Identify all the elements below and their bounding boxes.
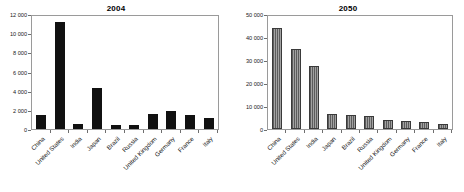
y-tick-label: 6 000 xyxy=(13,70,27,76)
chart-panel-2004: 2004 12 00010 0008 0006 0004 0002 0000 C… xyxy=(0,0,232,192)
bar-slot xyxy=(286,16,304,129)
y-tick-mark xyxy=(264,61,267,62)
bar-slot xyxy=(162,16,181,129)
x-axis-label-italy: Italy xyxy=(435,135,448,148)
x-label-slot: Germany xyxy=(162,133,181,191)
y-axis-2004: 12 00010 0008 0006 0004 0002 0000 xyxy=(0,15,31,130)
x-label-slot: France xyxy=(415,133,433,191)
bar-slot xyxy=(268,16,286,129)
y-tick-mark xyxy=(264,130,267,131)
bar-united-kingdom xyxy=(148,114,158,129)
x-label-slot: Japan xyxy=(88,133,107,191)
x-labels-2050: ChinaUnited StatesIndiaJapanBrazilRussia… xyxy=(268,133,452,191)
x-label-slot: Italy xyxy=(434,133,452,191)
bar-united-states xyxy=(291,49,301,129)
x-label-slot: Germany xyxy=(397,133,415,191)
x-label-slot: United Kingdom xyxy=(378,133,396,191)
y-tick-mark xyxy=(28,111,31,112)
x-axis-label-brazil: Brazil xyxy=(105,135,121,151)
bar-slot xyxy=(323,16,341,129)
bar-japan xyxy=(92,88,102,129)
y-tick-mark xyxy=(28,15,31,16)
bar-germany xyxy=(166,111,176,129)
bar-slot xyxy=(125,16,144,129)
dual-bar-chart-figure: 2004 12 00010 0008 0006 0004 0002 0000 C… xyxy=(0,0,464,192)
bar-united-kingdom xyxy=(383,120,393,129)
x-label-slot: India xyxy=(305,133,323,191)
chart-title-2050: 2050 xyxy=(232,4,464,13)
bar-italy xyxy=(438,124,448,129)
bar-slot xyxy=(51,16,70,129)
x-axis-label-china: China xyxy=(30,135,46,151)
y-tick-mark xyxy=(28,73,31,74)
x-axis-label-india: India xyxy=(69,135,83,149)
y-tick-label: 30 000 xyxy=(246,58,263,64)
bar-slot xyxy=(88,16,107,129)
bar-brazil xyxy=(111,125,121,129)
bar-slot xyxy=(415,16,433,129)
y-tick-label: 8 000 xyxy=(13,50,27,56)
y-tick-mark xyxy=(28,130,31,131)
y-tick-label: 2 000 xyxy=(13,108,27,114)
bar-slot xyxy=(106,16,125,129)
x-axis-label-brazil: Brazil xyxy=(340,135,356,151)
bar-russia xyxy=(129,125,139,129)
bar-slot xyxy=(32,16,51,129)
bar-germany xyxy=(401,121,411,129)
bar-brazil xyxy=(346,115,356,129)
y-tick-label: 50 000 xyxy=(246,12,263,18)
y-tick-mark xyxy=(28,92,31,93)
x-label-slot: United States xyxy=(51,133,70,191)
bar-china xyxy=(272,28,282,129)
bar-slot xyxy=(434,16,452,129)
x-label-slot: Italy xyxy=(199,133,218,191)
y-tick-label: 40 000 xyxy=(246,35,263,41)
bar-slot xyxy=(144,16,163,129)
y-tick-label: 12 000 xyxy=(10,12,27,18)
y-tick-label: 0 xyxy=(24,127,27,133)
x-axis-label-japan: Japan xyxy=(85,135,102,152)
bar-slot xyxy=(378,16,396,129)
x-label-slot: United States xyxy=(286,133,304,191)
x-label-slot: Japan xyxy=(323,133,341,191)
bar-india xyxy=(73,124,83,129)
y-axis-2050: 50 00040 00030 00020 00010 0000 xyxy=(232,15,267,130)
bar-slot xyxy=(360,16,378,129)
bars-area-2050 xyxy=(268,16,452,129)
bar-france xyxy=(185,115,195,129)
x-labels-2004: ChinaUnited StatesIndiaJapanBrazilRussia… xyxy=(32,133,218,191)
x-axis-label-japan: Japan xyxy=(321,135,338,152)
bars-area-2004 xyxy=(32,16,218,129)
bar-slot xyxy=(69,16,88,129)
y-tick-mark xyxy=(264,38,267,39)
x-axis-label-india: India xyxy=(305,135,319,149)
y-tick-mark xyxy=(264,107,267,108)
x-label-slot: France xyxy=(181,133,200,191)
x-axis-label-china: China xyxy=(266,135,282,151)
x-label-slot: Brazil xyxy=(342,133,360,191)
y-tick-mark xyxy=(264,84,267,85)
bar-slot xyxy=(305,16,323,129)
bar-china xyxy=(36,115,46,129)
bar-slot xyxy=(181,16,200,129)
x-axis-label-italy: Italy xyxy=(201,135,214,148)
bar-russia xyxy=(364,116,374,129)
x-label-slot: United Kingdom xyxy=(144,133,163,191)
bar-slot xyxy=(199,16,218,129)
y-tick-label: 10 000 xyxy=(246,104,263,110)
x-label-slot: Brazil xyxy=(106,133,125,191)
y-tick-label: 20 000 xyxy=(246,81,263,87)
chart-panel-2050: 2050 50 00040 00030 00020 00010 0000 Chi… xyxy=(232,0,464,192)
y-tick-label: 4 000 xyxy=(13,89,27,95)
y-tick-mark xyxy=(264,15,267,16)
y-tick-mark xyxy=(28,34,31,35)
bar-united-states xyxy=(55,22,65,129)
y-tick-mark xyxy=(28,53,31,54)
bar-india xyxy=(309,66,319,129)
x-label-slot: India xyxy=(69,133,88,191)
chart-title-2004: 2004 xyxy=(0,4,232,13)
bar-france xyxy=(419,122,429,129)
y-tick-label: 10 000 xyxy=(10,31,27,37)
bar-japan xyxy=(327,114,337,129)
y-tick-label: 0 xyxy=(260,127,263,133)
